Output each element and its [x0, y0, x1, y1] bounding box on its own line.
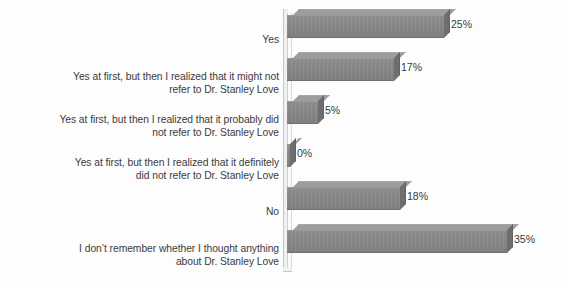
- category-label-line: Yes at first, but then I realized that i…: [17, 70, 279, 83]
- bar-end-face: [318, 95, 324, 124]
- category-label-line: Yes at first, but then I realized that i…: [17, 113, 279, 126]
- bar-end-face: [444, 9, 450, 38]
- bar-front-face: [287, 58, 394, 81]
- axis-wall-base: [283, 267, 292, 272]
- category-label-line: Yes at first, but then I realized that i…: [17, 156, 279, 169]
- bar-end-face: [400, 181, 406, 210]
- category-label: Yes at first, but then I realized that i…: [17, 156, 279, 182]
- category-label-line: Yes: [17, 33, 279, 46]
- bar-value-label: 0%: [297, 147, 312, 160]
- bar-value-label: 17%: [401, 61, 422, 74]
- chart-row: Yes at first, but then I realized that i…: [0, 52, 561, 95]
- category-label-line: I don’t remember whether I thought anyth…: [17, 242, 279, 255]
- chart-row: Yes 25%: [0, 9, 561, 52]
- category-label: I don’t remember whether I thought anyth…: [17, 242, 279, 268]
- bar-end-face: [394, 52, 400, 81]
- bar-value-label: 35%: [514, 233, 535, 246]
- bar-end-face: [507, 224, 513, 253]
- chart-row: No 18%: [0, 181, 561, 224]
- bar-chart: Yes 25% Yes at first, but then I realize…: [0, 0, 561, 286]
- category-label: Yes at first, but then I realized that i…: [17, 113, 279, 139]
- bar-front-face: [287, 101, 318, 124]
- category-label: No: [17, 205, 279, 218]
- bar-front-face: [287, 230, 507, 253]
- bar-front-face: [287, 187, 400, 210]
- chart-row: Yes at first, but then I realized that i…: [0, 138, 561, 181]
- category-label-line: about Dr. Stanley Love: [17, 255, 279, 268]
- category-label: Yes: [17, 33, 279, 46]
- category-label: Yes at first, but then I realized that i…: [17, 70, 279, 96]
- bar-value-label: 25%: [451, 18, 472, 31]
- chart-row: I don’t remember whether I thought anyth…: [0, 224, 561, 267]
- chart-row: Yes at first, but then I realized that i…: [0, 95, 561, 138]
- bar-value-label: 5%: [325, 104, 340, 117]
- bar-value-label: 18%: [407, 190, 428, 203]
- bar-end-face: [290, 138, 296, 167]
- category-label-line: No: [17, 205, 279, 218]
- bar-front-face: [287, 15, 444, 38]
